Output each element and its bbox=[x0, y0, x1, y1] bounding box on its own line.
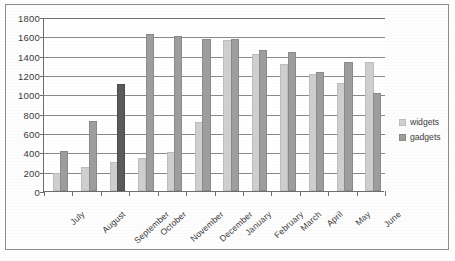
bar-group bbox=[215, 17, 243, 191]
bar-group bbox=[158, 17, 186, 191]
legend-item-gadgets[interactable]: gadgets bbox=[399, 132, 441, 142]
chart-figure: 180016001400120010008006004002000 JulyAu… bbox=[0, 0, 455, 261]
bar-group bbox=[72, 17, 100, 191]
chart-frame: 180016001400120010008006004002000 JulyAu… bbox=[5, 4, 449, 250]
x-axis-tick-mark bbox=[129, 191, 130, 196]
legend-item-widgets[interactable]: widgets bbox=[399, 117, 441, 127]
y-axis-tick-label: 600 bbox=[24, 129, 40, 140]
y-axis-tick-label: 800 bbox=[24, 109, 40, 120]
bar-group bbox=[186, 17, 214, 191]
bar-gadgets-march[interactable] bbox=[288, 52, 296, 191]
x-axis-tick-mark bbox=[215, 191, 216, 196]
bar-group bbox=[44, 17, 72, 191]
x-axis-tick-mark bbox=[44, 191, 45, 196]
x-axis-tick-mark bbox=[271, 191, 272, 196]
y-axis-tick-label: 1000 bbox=[18, 90, 40, 101]
legend-swatch-icon bbox=[399, 134, 406, 141]
x-axis-tick-mark bbox=[357, 191, 358, 196]
bar-group bbox=[243, 17, 271, 191]
bar-gadgets-november[interactable] bbox=[174, 36, 182, 191]
legend-label: gadgets bbox=[410, 132, 441, 142]
x-axis-tick-label: May bbox=[353, 209, 372, 228]
y-axis-tick-label: 200 bbox=[24, 167, 40, 178]
y-axis-tick-label: 400 bbox=[24, 148, 40, 159]
bar-gadgets-october[interactable] bbox=[146, 34, 154, 191]
bar-gadgets-april[interactable] bbox=[316, 72, 324, 191]
bar-gadgets-february[interactable] bbox=[259, 50, 267, 191]
x-axis-tick-mark bbox=[328, 191, 329, 196]
chart-legend: widgetsgadgets bbox=[399, 117, 441, 147]
x-axis-tick-label: June bbox=[382, 209, 403, 229]
y-axis-tick-label: 1200 bbox=[18, 71, 40, 82]
bar-gadgets-september[interactable] bbox=[117, 84, 125, 191]
y-axis-tick-label: 1800 bbox=[18, 13, 40, 24]
x-axis-tick-mark bbox=[158, 191, 159, 196]
legend-swatch-icon bbox=[399, 119, 406, 126]
x-axis-tick-mark bbox=[186, 191, 187, 196]
x-axis-tick-mark bbox=[72, 191, 73, 196]
x-axis-tick-label: July bbox=[69, 209, 88, 227]
x-axis-tick-mark bbox=[385, 191, 386, 196]
legend-label: widgets bbox=[410, 117, 439, 127]
bar-series-container bbox=[44, 17, 385, 191]
bar-group bbox=[271, 17, 299, 191]
y-axis-tick-label: 1400 bbox=[18, 51, 40, 62]
bar-gadgets-july[interactable] bbox=[60, 151, 68, 191]
x-axis-tick-mark bbox=[300, 191, 301, 196]
x-axis-tick-label: April bbox=[325, 209, 345, 228]
bar-group bbox=[101, 17, 129, 191]
x-axis-tick-label: August bbox=[100, 209, 127, 235]
bar-gadgets-may[interactable] bbox=[344, 62, 352, 191]
bar-gadgets-january[interactable] bbox=[231, 39, 239, 191]
bar-group bbox=[129, 17, 157, 191]
bar-group bbox=[357, 17, 385, 191]
x-axis-tick-mark bbox=[101, 191, 102, 196]
x-axis-tick-mark bbox=[243, 191, 244, 196]
plot-area: 180016001400120010008006004002000 JulyAu… bbox=[43, 18, 384, 192]
bar-group bbox=[328, 17, 356, 191]
bar-gadgets-december[interactable] bbox=[202, 39, 210, 191]
y-axis-tick-label: 1600 bbox=[18, 32, 40, 43]
bar-gadgets-august[interactable] bbox=[89, 121, 97, 191]
bar-group bbox=[300, 17, 328, 191]
bar-gadgets-june[interactable] bbox=[373, 93, 381, 191]
